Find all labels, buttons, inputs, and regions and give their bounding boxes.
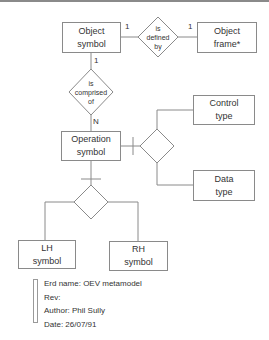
- cardinality-comprised-bottom: N: [93, 117, 99, 126]
- relationship-label: is: [75, 79, 107, 88]
- entity-label: Data: [214, 173, 233, 186]
- entity-label: symbol: [77, 38, 106, 51]
- entity-label: LH: [41, 242, 53, 255]
- entity-rh-symbol: RH symbol: [109, 241, 168, 271]
- entity-label: symbol: [33, 255, 62, 268]
- entity-lh-symbol: LH symbol: [18, 240, 76, 269]
- relationship-label: by: [147, 42, 170, 51]
- legend: Erd name: OEV metamodel Rev: Author: Phi…: [44, 277, 142, 332]
- entity-label: Operation: [71, 133, 111, 146]
- entity-object-frame: Object frame*: [197, 22, 257, 53]
- entity-label: type: [215, 110, 232, 123]
- entity-label: symbol: [124, 256, 153, 269]
- cardinality-comprised-top: 1: [94, 56, 98, 65]
- entity-label: RH: [132, 243, 145, 256]
- cardinality-defined-right: 1: [188, 22, 192, 31]
- symbol-diamond: [74, 185, 108, 219]
- relationship-is-comprised-of: is comprised of: [75, 79, 107, 106]
- entity-object-symbol: Object symbol: [62, 22, 121, 53]
- entity-label: type: [215, 186, 232, 199]
- relationship-label: defined: [147, 33, 170, 42]
- type-diamond: [140, 129, 174, 163]
- legend-bar: [33, 279, 38, 323]
- entity-data-type: Data type: [193, 170, 255, 201]
- legend-author: Author: Phil Sully: [44, 304, 142, 318]
- entity-operation-symbol: Operation symbol: [61, 131, 121, 161]
- relationship-label: is: [147, 24, 170, 33]
- entity-label: Object: [78, 25, 104, 38]
- entity-label: frame*: [214, 38, 241, 51]
- legend-date: Date: 26/07/91: [44, 318, 142, 332]
- cardinality-defined-left: 1: [125, 22, 129, 31]
- entity-control-type: Control type: [193, 95, 255, 125]
- relationship-label: comprised: [75, 88, 107, 97]
- legend-rev: Rev:: [44, 291, 142, 305]
- entity-label: symbol: [77, 146, 106, 159]
- legend-erd-name: Erd name: OEV metamodel: [44, 277, 142, 291]
- relationship-is-defined-by: is defined by: [147, 24, 170, 51]
- relationship-label: of: [75, 97, 107, 106]
- entity-label: Control: [209, 97, 238, 110]
- entity-label: Object: [214, 25, 240, 38]
